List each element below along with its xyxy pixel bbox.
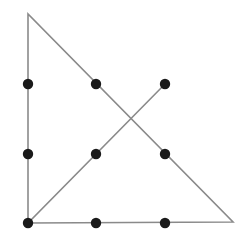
dot-r2c1 <box>23 149 33 159</box>
nine-dots-diagram <box>0 0 249 241</box>
dot-r2c2 <box>91 149 101 159</box>
dot-r3c2 <box>91 218 101 228</box>
dot-r1c1 <box>23 79 33 89</box>
dot-r2c3 <box>160 149 170 159</box>
dot-r3c3 <box>160 218 170 228</box>
dot-r1c2 <box>91 79 101 89</box>
dot-r1c3 <box>160 79 170 89</box>
background <box>0 0 249 241</box>
dot-r3c1 <box>23 218 33 228</box>
